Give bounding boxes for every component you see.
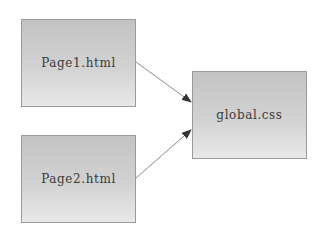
- node-global-css: global.css: [192, 71, 307, 159]
- node-label: global.css: [216, 108, 282, 122]
- node-label: Page2.html: [41, 172, 116, 186]
- node-page2: Page2.html: [21, 135, 136, 223]
- edge-page2-to-global: [136, 130, 191, 178]
- edge-page1-to-global: [136, 62, 191, 102]
- node-label: Page1.html: [41, 56, 116, 70]
- node-page1: Page1.html: [21, 19, 136, 107]
